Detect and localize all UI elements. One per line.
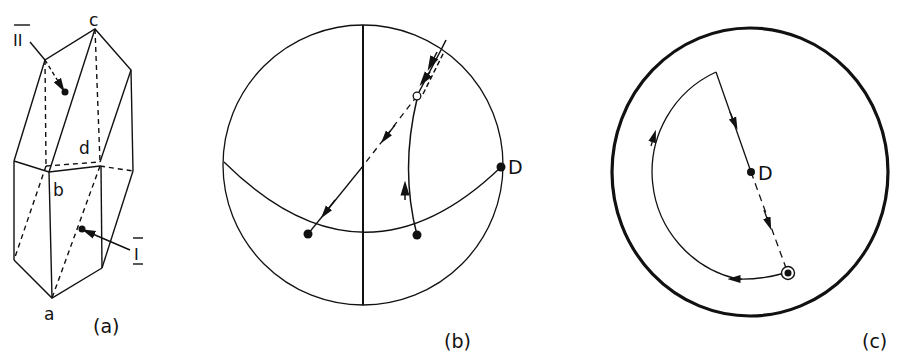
svg-text:II: II <box>13 31 22 50</box>
crystal-top-edges <box>14 29 133 171</box>
face-one-point <box>79 226 86 233</box>
point-d-c <box>747 168 755 176</box>
left-arc-point <box>304 230 313 239</box>
panel-a-crystal <box>14 29 133 298</box>
svg-text:I: I <box>134 245 139 264</box>
trajectory-curve <box>409 99 418 235</box>
figure: c d b a II I (a) D (b) <box>0 0 903 362</box>
open-circle-point <box>413 92 421 100</box>
right-arc-point <box>413 231 422 240</box>
point-d-b <box>497 163 506 172</box>
panel-b-stereogram <box>223 25 503 305</box>
caption-b: (b) <box>444 330 471 352</box>
vertex-label-b: b <box>53 180 64 200</box>
caption-c: (c) <box>862 330 887 352</box>
vertex-label-c: c <box>89 10 98 30</box>
vertex-label-a: a <box>44 304 54 324</box>
label-d-c: D <box>758 162 773 184</box>
label-d-b: D <box>508 156 523 178</box>
face-label-two: II <box>13 25 30 50</box>
vertex-label-d: d <box>79 138 90 158</box>
circled-dot-point <box>782 267 795 280</box>
face-label-one: I <box>133 238 143 264</box>
face-two-point <box>62 89 69 96</box>
caption-a: (a) <box>93 315 119 337</box>
